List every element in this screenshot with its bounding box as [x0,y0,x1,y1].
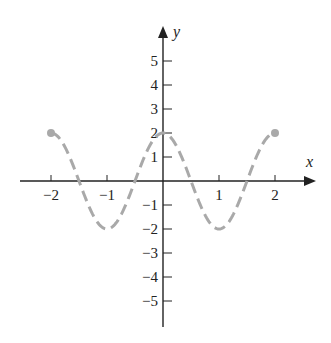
y-tick-label: 3 [151,101,159,117]
y-tick-label: −4 [142,269,158,285]
y-tick-label: 5 [151,53,159,69]
y-tick-label: 2 [151,125,159,141]
y-tick-label: −5 [142,293,158,309]
x-tick-label: 1 [215,187,223,203]
x-axis-label: x [305,153,313,170]
y-tick-label: −3 [142,245,158,261]
x-tick-label: −1 [99,187,115,203]
x-tick-label: 2 [271,187,279,203]
y-tick-label: −1 [142,197,158,213]
y-axis-arrow-icon [158,26,168,38]
x-tick-label: −2 [43,187,59,203]
y-tick-label: 4 [151,77,159,93]
endpoint-left [47,129,55,137]
y-axis-label: y [171,23,181,41]
x-axis-arrow-icon [304,176,316,186]
y-tick-label: −2 [142,221,158,237]
y-tick-label: 1 [151,149,159,165]
endpoint-right [271,129,279,137]
cosine-graph: xy−2−11254321−1−2−3−4−5 [0,0,331,343]
